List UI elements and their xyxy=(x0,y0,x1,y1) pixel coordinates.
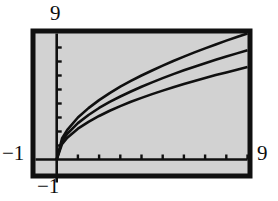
y-axis-min-label: −1 xyxy=(2,143,24,164)
plot-figure: 9 −1 9 −1 xyxy=(0,0,278,201)
plot-background xyxy=(33,31,250,176)
y-axis-max-label: 9 xyxy=(50,3,61,24)
x-axis-min-label: −1 xyxy=(37,176,59,197)
x-axis-max-label: 9 xyxy=(257,143,268,164)
plot-canvas xyxy=(0,0,278,201)
